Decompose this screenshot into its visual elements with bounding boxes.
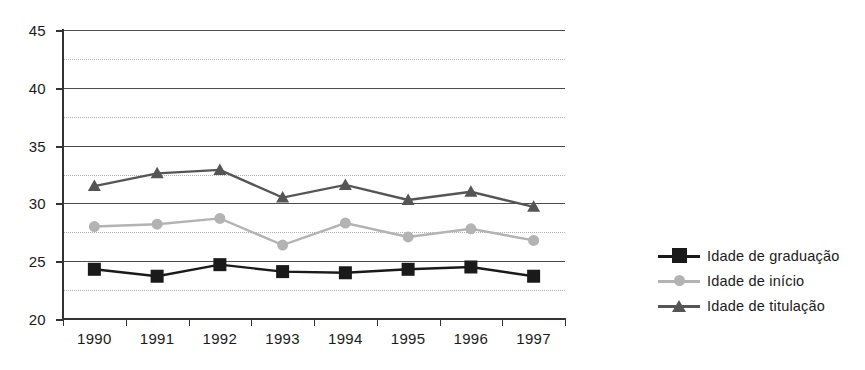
x-tick-label: 1995 <box>373 330 443 347</box>
y-tick-mark <box>56 88 63 90</box>
x-tick-mark <box>502 319 503 326</box>
legend-triangle-icon <box>658 296 700 316</box>
x-tick-mark <box>314 319 315 326</box>
plot-area <box>63 30 565 319</box>
y-tick-mark <box>56 146 63 148</box>
legend-square-icon <box>658 246 700 266</box>
x-tick-mark <box>189 319 190 326</box>
gridline-major <box>63 203 565 204</box>
y-tick-mark <box>56 203 63 205</box>
x-tick-label: 1997 <box>499 330 569 347</box>
gridline-minor <box>63 175 565 176</box>
y-tick-mark <box>56 261 63 263</box>
y-tick-label: 45 <box>0 22 46 39</box>
x-tick-label: 1994 <box>310 330 380 347</box>
y-tick-label: 40 <box>0 79 46 96</box>
x-tick-mark <box>63 319 64 326</box>
y-tick-label: 35 <box>0 137 46 154</box>
y-axis-line <box>62 29 64 320</box>
legend-label-inicio: Idade de início <box>700 273 804 289</box>
x-tick-mark <box>440 319 441 326</box>
x-tick-mark <box>126 319 127 326</box>
legend-label-titulacao: Idade de titulação <box>700 298 825 314</box>
x-tick-label: 1991 <box>122 330 192 347</box>
x-tick-mark <box>565 319 566 326</box>
gridline-minor <box>63 117 565 118</box>
legend-item-titulacao: Idade de titulação <box>658 293 863 318</box>
legend-circle-icon <box>658 271 700 291</box>
gridline-major <box>63 261 565 262</box>
x-tick-label: 1993 <box>248 330 318 347</box>
x-tick-label: 1992 <box>185 330 255 347</box>
y-tick-label: 30 <box>0 195 46 212</box>
y-tick-mark <box>56 30 63 32</box>
gridline-major <box>63 146 565 147</box>
y-tick-label: 25 <box>0 253 46 270</box>
gridline-minor <box>63 290 565 291</box>
legend-label-graduacao: Idade de graduação <box>700 248 840 264</box>
chart-legend: Idade de graduação Idade de início Idade… <box>658 243 863 318</box>
x-tick-label: 1990 <box>59 330 129 347</box>
y-tick-mark <box>56 319 63 321</box>
gridline-major <box>63 30 565 31</box>
x-tick-label: 1996 <box>436 330 506 347</box>
gridline-minor <box>63 232 565 233</box>
gridline-minor <box>63 59 565 60</box>
x-tick-mark <box>251 319 252 326</box>
x-tick-mark <box>377 319 378 326</box>
legend-item-inicio: Idade de início <box>658 268 863 293</box>
legend-item-graduacao: Idade de graduação <box>658 243 863 268</box>
y-tick-label: 20 <box>0 311 46 328</box>
line-chart: 2025303540451990199119921993199419951996… <box>0 0 865 370</box>
gridline-major <box>63 88 565 89</box>
